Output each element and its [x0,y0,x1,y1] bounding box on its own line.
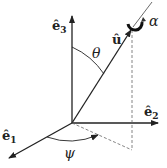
label-theta: θ [92,45,101,61]
projection-ground [72,123,132,150]
vector-u [72,30,131,123]
label-u: û [112,32,121,47]
label-e3: ê3 [52,18,67,35]
psi-arc [47,135,98,141]
label-e1: ê1 [2,128,17,145]
alpha-rotation-icon [128,22,142,30]
rotation-diagram: ê3 ê2 ê1 û θ ψ α [0,0,167,168]
label-psi: ψ [64,145,76,161]
label-alpha: α [149,13,159,29]
label-e2: ê2 [144,104,159,121]
